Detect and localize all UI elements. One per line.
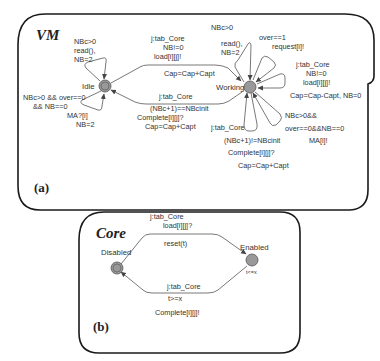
state-label-enabled: Enabled — [240, 243, 269, 252]
label-working-self-request: over==1 request[i]! — [259, 33, 304, 51]
label-disabled-to-enabled: j:tab_Core load[i][j]? reset(t) — [149, 212, 192, 248]
edge-working-self-ma[interactable] — [253, 92, 282, 126]
core-title: Core — [96, 225, 126, 241]
state-working[interactable] — [244, 81, 256, 93]
svg-text:NB=2: NB=2 — [221, 48, 239, 57]
label-idle-to-working: j:tab_Core NB!=0 load[i][j]! Cap=Cap+Cap… — [150, 34, 215, 78]
svg-text:Cap=Cap+Capt: Cap=Cap+Capt — [145, 122, 196, 131]
svg-text:MA[i]!: MA[i]! — [309, 136, 328, 145]
label-working-self-complete: j:tab_Core (NBc+1)!=NBcinit Complete[i][… — [210, 123, 289, 170]
state-disabled[interactable] — [111, 262, 123, 274]
svg-text:read(),: read(), — [221, 39, 243, 48]
vm-panel-id: (a) — [34, 180, 49, 195]
core-panel-id: (b) — [93, 319, 109, 334]
vm-panel: VM (a) NBc>0 read(), NB=2 NBc>0 && over=… — [18, 14, 374, 210]
label-working-self-load: j:tab_Core NB!=0 load[i][j]! Cap=Cap-Cap… — [290, 60, 361, 100]
edge-working-self-complete[interactable] — [244, 93, 257, 131]
label-idle-self-top: NBc>0 read(), NB=2 — [74, 37, 96, 64]
svg-text:NB!=0: NB!=0 — [306, 69, 326, 78]
invariant-enabled: t<=x — [246, 269, 257, 275]
svg-text:NBc>0 && over==0: NBc>0 && over==0 — [23, 93, 86, 102]
svg-text:load[i][j]!: load[i][j]! — [303, 78, 330, 87]
svg-text:MA?[i]: MA?[i] — [67, 111, 88, 120]
svg-text:NB=2: NB=2 — [74, 55, 92, 64]
vm-title: VM — [36, 27, 60, 43]
svg-text:Complete[i][j]?: Complete[i][j]? — [228, 148, 275, 157]
svg-text:load[i][j]!: load[i][j]! — [154, 52, 181, 61]
svg-text:over==1: over==1 — [259, 33, 286, 42]
svg-text:NBc>0: NBc>0 — [211, 23, 233, 32]
svg-text:&& NB==0: && NB==0 — [33, 102, 67, 111]
svg-text:(NBc+1)==NBcinit: (NBc+1)==NBcinit — [150, 104, 209, 113]
svg-text:request[i]!: request[i]! — [272, 42, 304, 51]
state-idle[interactable] — [99, 80, 111, 92]
state-enabled[interactable] — [246, 254, 258, 266]
state-label-working: Working — [216, 83, 244, 92]
label-working-self-ma: NBc>0&& over==0&&NB==0 MA[i]! — [285, 111, 344, 145]
label-working-self-read: NBc>0 read(), NB=2 — [211, 23, 243, 57]
svg-text:j:tab_Core: j:tab_Core — [158, 92, 193, 101]
svg-text:NB=2: NB=2 — [76, 120, 94, 129]
svg-text:j:tab_Core: j:tab_Core — [166, 282, 201, 291]
svg-text:NBc>0: NBc>0 — [74, 37, 96, 46]
svg-text:Complete[i][j]!: Complete[i][j]! — [155, 308, 200, 317]
svg-text:(NBc+1)!=NBcinit: (NBc+1)!=NBcinit — [224, 136, 280, 145]
state-label-idle: Idle — [82, 82, 95, 91]
svg-text:NB!=0: NB!=0 — [163, 43, 183, 52]
svg-text:Cap=Cap+Capt: Cap=Cap+Capt — [164, 69, 215, 78]
svg-text:j:tab_Core: j:tab_Core — [150, 34, 185, 43]
svg-text:NBc>0&&: NBc>0&& — [285, 111, 317, 120]
svg-text:reset(t): reset(t) — [164, 239, 187, 248]
label-enabled-to-disabled: j:tab_Core t>=x Complete[i][j]! — [155, 282, 201, 317]
svg-text:j:tab_Core: j:tab_Core — [149, 212, 184, 221]
label-idle-self-bottom: NBc>0 && over==0 && NB==0 MA?[i] NB=2 — [23, 93, 94, 129]
svg-text:over==0&&NB==0: over==0&&NB==0 — [285, 124, 344, 133]
edge-working-self-request[interactable] — [253, 56, 276, 82]
edge-working-self-load[interactable] — [257, 74, 285, 88]
svg-text:j:tab_Core: j:tab_Core — [295, 60, 330, 69]
svg-text:Cap=Cap+Capt: Cap=Cap+Capt — [238, 161, 289, 170]
svg-text:t>=x: t>=x — [168, 294, 183, 303]
idle-node-inner — [101, 82, 109, 90]
svg-text:Cap=Cap-Capt, NB=0: Cap=Cap-Capt, NB=0 — [290, 91, 361, 100]
svg-text:load[i][j]?: load[i][j]? — [163, 221, 192, 230]
disabled-node-inner — [113, 264, 121, 272]
state-label-disabled: Disabled — [101, 248, 131, 257]
svg-text:j:tab_Core: j:tab_Core — [210, 123, 245, 132]
svg-text:read(),: read(), — [74, 46, 96, 55]
label-working-to-idle: j:tab_Core (NBc+1)==NBcinit Complete[i][… — [137, 92, 209, 131]
svg-text:Complete[i][j]?: Complete[i][j]? — [137, 113, 184, 122]
